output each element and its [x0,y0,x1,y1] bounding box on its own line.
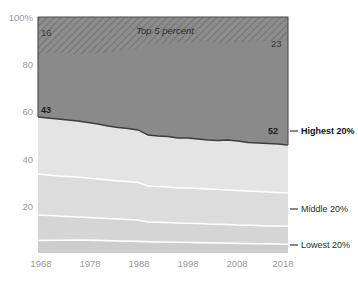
top-5-start-value: 16 [41,27,52,38]
top-5-end-value: 23 [271,38,282,49]
x-axis-ticks: 1968 1978 1988 1998 2008 2018 [30,258,293,269]
right-axis-labels: Highest 20% Middle 20% Lowest 20% [290,126,355,250]
chart-svg: 100% 80 60 40 20 1968 1978 1988 1998 200… [0,0,358,282]
y-tick-80: 80 [22,59,33,70]
x-tick-1998: 1998 [177,258,198,269]
right-label-highest-20: Highest 20% [301,126,355,136]
highest-20-start-value: 43 [41,105,51,115]
x-tick-1978: 1978 [79,258,100,269]
top-5-percent-label: Top 5 percent [136,25,194,36]
y-tick-100: 100% [9,12,34,23]
stacked-areas [38,17,288,253]
y-tick-40: 40 [22,154,33,165]
y-tick-20: 20 [22,201,33,212]
y-tick-60: 60 [22,106,33,117]
right-label-lowest-20: Lowest 20% [301,240,350,250]
income-share-chart: 100% 80 60 40 20 1968 1978 1988 1998 200… [0,0,358,282]
highest-20-end-value: 52 [268,126,278,136]
y-axis-ticks: 100% 80 60 40 20 [9,12,34,212]
x-tick-2018: 2018 [272,258,293,269]
x-tick-2008: 2008 [226,258,247,269]
x-tick-1988: 1988 [128,258,149,269]
x-tick-1968: 1968 [30,258,51,269]
right-label-middle-20: Middle 20% [301,204,348,214]
